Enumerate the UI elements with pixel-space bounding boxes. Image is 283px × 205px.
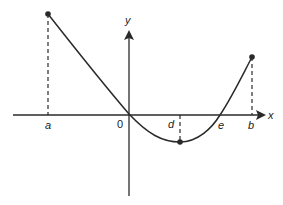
- y-axis-label: y: [124, 14, 132, 26]
- point-b-label: b: [248, 119, 254, 131]
- point-a-dot: [45, 11, 51, 17]
- origin-label: 0: [117, 118, 123, 130]
- x-axis-label: x: [267, 109, 274, 121]
- point-d-min-dot: [177, 139, 183, 145]
- point-b-dot: [249, 54, 255, 60]
- point-a-label: a: [45, 119, 51, 131]
- point-d-label: d: [168, 118, 175, 130]
- point-e-label: e: [218, 119, 224, 131]
- function-graph: y x 0 a d e b: [0, 0, 283, 205]
